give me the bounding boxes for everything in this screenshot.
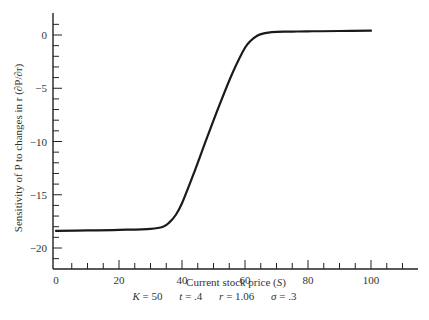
y-axis-title: Sensitivity of P to changes in r (∂P/∂r) (12, 63, 25, 232)
param-sigma: σ = .3 (271, 290, 296, 302)
data-line (56, 31, 371, 231)
x-tick-label: 80 (303, 274, 315, 286)
y-tick-label: 0 (42, 29, 48, 41)
y-tick-label: −5 (35, 82, 47, 94)
ticks (53, 24, 403, 269)
x-tick-label: 100 (363, 274, 380, 286)
y-tick-label: −10 (30, 136, 48, 148)
tick-labels: 0−5−10−15−20020406080100 (30, 29, 380, 286)
param-t: t = .4 (179, 290, 202, 302)
param-r: r = 1.06 (219, 290, 254, 302)
y-tick-label: −20 (30, 242, 48, 254)
y-tick-label: −15 (30, 189, 48, 201)
param-k: K = 50 (133, 290, 163, 302)
chart: 0−5−10−15−20020406080100 Sensitivity of … (0, 0, 429, 320)
x-tick-label: 0 (53, 274, 59, 286)
parameter-annotation: K = 50 t = .4 r = 1.06 σ = .3 (0, 290, 429, 302)
x-tick-label: 20 (114, 274, 126, 286)
x-axis-title: Current stock price (S) (186, 276, 286, 289)
